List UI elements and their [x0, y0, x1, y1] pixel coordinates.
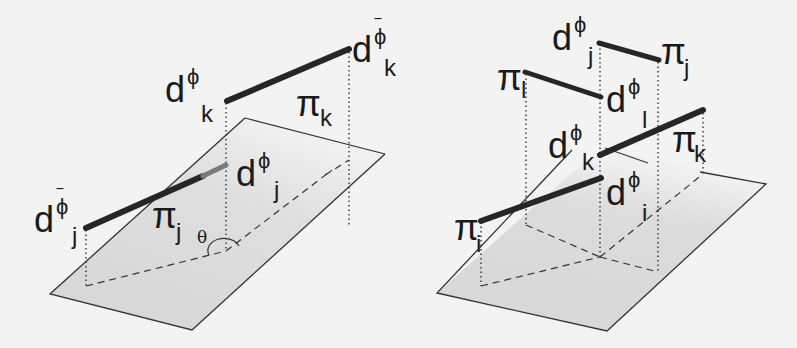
label-r-d-phi-i: dϕi — [606, 175, 626, 211]
label-d-phibar-j: d‾ϕj — [34, 202, 54, 238]
label-r-d-phi-k: dϕk — [548, 128, 568, 164]
label-d-phi-j: dϕj — [236, 156, 256, 192]
label-r-d-phi-l: dϕl — [606, 82, 626, 118]
diagram-canvas: dϕk d‾ϕk πk dϕj d‾ϕj πj θ dϕj πj πl dϕl … — [0, 0, 797, 348]
left-bar-k — [227, 49, 349, 101]
label-r-pi-l: πl — [497, 60, 522, 96]
label-d-phi-k: dϕk — [165, 72, 185, 108]
label-theta: θ — [197, 227, 207, 247]
label-r-pi-k: πk — [672, 122, 697, 158]
right-bar-l — [525, 72, 601, 97]
label-pi-j: πj — [152, 198, 177, 234]
label-r-d-phi-j: dϕj — [552, 20, 572, 56]
right-bar-j — [599, 43, 659, 60]
label-r-pi-i: πi — [454, 210, 479, 246]
label-r-pi-j: πj — [661, 34, 686, 70]
label-pi-k: πk — [296, 86, 321, 122]
label-d-phibar-k: d‾ϕk — [352, 32, 372, 68]
